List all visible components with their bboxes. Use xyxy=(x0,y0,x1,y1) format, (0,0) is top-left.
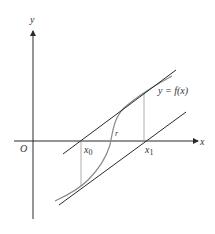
y-axis-label: y xyxy=(29,14,35,25)
curve-label: y = f(x) xyxy=(157,85,189,97)
x0-label: x0 xyxy=(83,144,92,157)
tangent-line-at-x0 xyxy=(59,112,186,205)
origin-label: O xyxy=(20,143,27,154)
x-axis-label: x xyxy=(199,136,205,147)
function-curve xyxy=(55,76,172,201)
newton-method-diagram: y x O y = f(x) r x0 x1 xyxy=(0,0,215,234)
root-label: r xyxy=(115,129,119,138)
x1-label: x1 xyxy=(144,144,153,157)
